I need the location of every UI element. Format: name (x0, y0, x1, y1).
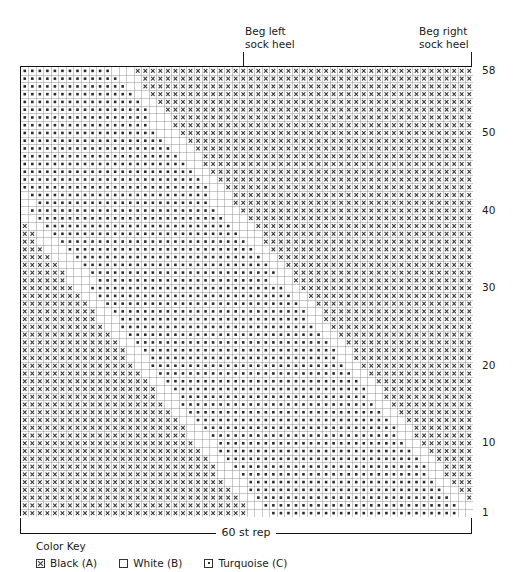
color-key-label: Black (A) (50, 557, 97, 569)
repeat-label: 60 st rep (20, 526, 472, 539)
row-number: 1 (482, 507, 489, 517)
row-number: 40 (482, 205, 495, 215)
row-number-axis: 5850403020101 (474, 60, 518, 524)
color-key: Color Key Black (A)White (B)Turquoise (C… (36, 540, 287, 569)
color-key-label: White (B) (133, 557, 182, 569)
beg-left-heel-leader-line (243, 52, 244, 66)
x-swatch-icon (36, 559, 45, 568)
color-key-item: White (B) (119, 557, 182, 569)
color-key-item: Black (A) (36, 557, 97, 569)
beg-right-sock-heel-label: Beg right sock heel (419, 25, 469, 50)
row-number: 20 (482, 360, 495, 370)
row-number: 10 (482, 437, 495, 447)
color-key-title: Color Key (36, 540, 287, 552)
beg-right-heel-leader-line (471, 52, 472, 66)
row-number: 58 (482, 65, 495, 75)
color-key-items: Black (A)White (B)Turquoise (C) (36, 557, 287, 569)
colorwork-chart-grid[interactable] (20, 66, 472, 516)
repeat-label-text: 60 st rep (216, 526, 275, 539)
row-number: 30 (482, 282, 495, 292)
beg-left-sock-heel-label: Beg left sock heel (245, 25, 295, 50)
knitting-chart-page: Beg left sock heel Beg right sock heel 5… (0, 0, 519, 572)
dot-swatch-icon (204, 559, 213, 568)
color-key-label: Turquoise (C) (218, 557, 287, 569)
chart-canvas[interactable] (21, 67, 473, 517)
color-key-item: Turquoise (C) (204, 557, 287, 569)
row-number: 50 (482, 127, 495, 137)
blank-swatch-icon (119, 559, 128, 568)
